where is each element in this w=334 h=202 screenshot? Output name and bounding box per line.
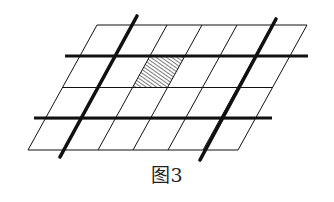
- hatched-cell: [133, 56, 185, 87]
- thick-slanted-line: [200, 19, 276, 160]
- hatched-cell-fill: [133, 56, 185, 87]
- thick-slanted-line: [60, 16, 137, 157]
- parallelogram-grid: [28, 25, 307, 150]
- figure-caption: 图3: [0, 160, 334, 187]
